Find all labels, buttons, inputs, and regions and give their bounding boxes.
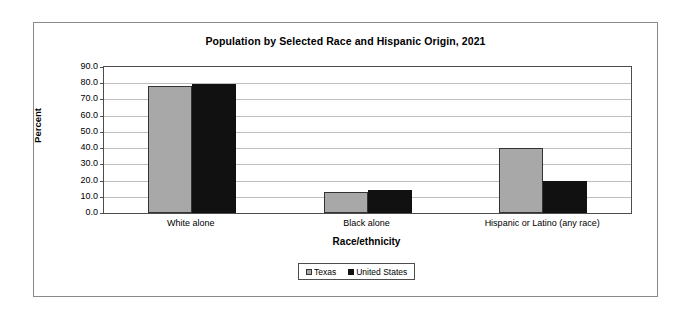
legend-swatch-icon	[306, 269, 312, 275]
x-axis-category-label: Black alone	[279, 218, 455, 228]
x-axis-title: Race/ethnicity	[103, 236, 630, 247]
chart-legend: TexasUnited States	[298, 263, 415, 280]
y-axis-tick-label: 20.0	[62, 175, 98, 184]
y-axis-tick	[100, 181, 104, 182]
bar-texas-0	[148, 86, 192, 213]
y-axis-tick	[100, 148, 104, 149]
bar-texas-1	[324, 192, 368, 213]
x-axis-category-label: Hispanic or Latino (any race)	[454, 218, 630, 228]
y-axis-tick-label: 70.0	[62, 94, 98, 103]
legend-swatch-icon	[348, 269, 354, 275]
y-axis-tick	[100, 213, 104, 214]
y-axis-tick-label: 30.0	[62, 159, 98, 168]
y-axis-tick	[100, 132, 104, 133]
chart-title: Population by Selected Race and Hispanic…	[33, 35, 658, 47]
y-axis-tick-label: 40.0	[62, 143, 98, 152]
y-axis-tick-label: 80.0	[62, 78, 98, 87]
gridline	[104, 83, 631, 84]
y-axis-tick	[100, 116, 104, 117]
y-axis-tick-labels: 90.080.070.060.050.040.030.020.010.00.0	[62, 60, 98, 214]
y-axis-title: Percent	[32, 81, 43, 171]
bar-united-states-2	[543, 181, 587, 213]
legend-item-label: Texas	[314, 267, 336, 277]
legend-item-label: United States	[356, 267, 407, 277]
legend-item-texas[interactable]: Texas	[306, 267, 336, 277]
y-axis-tick	[100, 197, 104, 198]
y-axis-tick-label: 60.0	[62, 110, 98, 119]
y-axis-tick-label: 50.0	[62, 126, 98, 135]
y-axis-tick	[100, 67, 104, 68]
y-axis-tick-label: 90.0	[62, 62, 98, 71]
y-axis-tick-label: 10.0	[62, 191, 98, 200]
bar-united-states-0	[192, 84, 236, 213]
bar-united-states-1	[368, 190, 412, 213]
y-axis-tick	[100, 99, 104, 100]
plot-area	[103, 66, 632, 214]
legend-item-united-states[interactable]: United States	[348, 267, 407, 277]
y-axis-tick	[100, 164, 104, 165]
y-axis-tick	[100, 83, 104, 84]
y-axis-tick-label: 0.0	[62, 208, 98, 217]
x-axis-category-label: White alone	[103, 218, 279, 228]
bar-texas-2	[499, 148, 543, 213]
